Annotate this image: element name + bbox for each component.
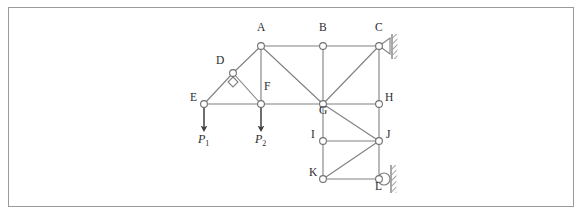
node-label-b: B [319,22,327,34]
truss-joint-d [230,70,237,77]
load-label-p2: P2 [255,133,266,148]
load-subscript: 2 [262,139,266,148]
load-arrows-group [204,104,261,129]
node-label-k: K [309,167,317,179]
right-angle-marker-group [228,77,238,87]
truss-joint-k [320,176,327,183]
node-label-c: C [375,22,383,34]
node-label-a: A [257,22,265,34]
load-label-p1: P1 [198,133,209,148]
truss-member [204,73,233,104]
truss-joint-c [376,43,383,50]
truss-member [323,46,379,104]
truss-members-group [204,46,379,179]
support-hatching [393,34,398,59]
supports-group [378,34,397,193]
truss-member [261,46,323,104]
node-label-e: E [190,92,197,104]
truss-diagram [9,8,575,208]
node-label-d: D [216,55,224,67]
load-subscript: 1 [205,139,209,148]
node-label-l: L [375,181,382,193]
node-label-j: J [386,129,390,141]
truss-joint-i [320,138,327,145]
right-angle-marker [228,77,238,87]
node-label-f: F [264,81,270,93]
truss-joint-h [376,101,383,108]
truss-joint-j [376,138,383,145]
truss-member [233,46,261,73]
node-label-i: I [311,129,315,141]
truss-joint-e [201,101,208,108]
node-label-h: H [385,92,393,104]
truss-joint-a [258,43,265,50]
node-label-g: G [319,105,327,117]
truss-joint-f [258,101,265,108]
support-hatching [392,165,397,193]
truss-joint-b [320,43,327,50]
truss-member [233,73,261,104]
truss-member [323,104,379,141]
truss-member [323,141,379,179]
figure-border: ABCDEFGHIJKLP1P2 [8,7,574,207]
truss-joints-group [201,43,383,183]
